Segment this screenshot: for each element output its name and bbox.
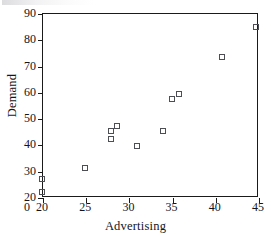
data-point — [134, 143, 140, 149]
scan-artifact — [2, 0, 94, 5]
y-axis-tick-label: 40 — [24, 138, 36, 150]
data-point — [219, 54, 225, 60]
x-axis-tick-label: 45 — [252, 201, 264, 213]
y-axis-tick-label: 80 — [24, 33, 36, 45]
x-axis-tick-label: 35 — [166, 201, 178, 213]
plot-area — [42, 13, 258, 197]
x-axis-tick-label: 20 — [36, 201, 48, 213]
data-point — [114, 123, 120, 129]
x-axis-tick-label: 30 — [122, 201, 134, 213]
y-axis-tick-label: 90 — [24, 7, 36, 19]
data-point — [82, 165, 88, 171]
origin-zero-label: 0 — [24, 201, 30, 213]
scatter-plot-figure: 2030405060708090 202530354045 0 Advertis… — [0, 0, 271, 236]
y-axis-tick-label: 70 — [24, 60, 36, 72]
data-point — [160, 128, 166, 134]
x-axis-tick-label: 40 — [209, 201, 221, 213]
y-axis-tick-label: 30 — [24, 165, 36, 177]
x-axis-tick-labels: 202530354045 — [0, 201, 271, 217]
data-point — [169, 96, 175, 102]
data-point — [39, 176, 45, 182]
data-point — [39, 189, 45, 195]
y-axis-title: Demand — [5, 66, 20, 126]
data-point — [176, 91, 182, 97]
data-point — [253, 24, 259, 30]
y-axis-tick-label: 50 — [24, 112, 36, 124]
x-axis-title: Advertising — [0, 219, 271, 234]
y-axis-tick-label: 60 — [24, 86, 36, 98]
data-point — [108, 128, 114, 134]
data-point — [108, 136, 114, 142]
x-axis-tick-label: 25 — [79, 201, 91, 213]
